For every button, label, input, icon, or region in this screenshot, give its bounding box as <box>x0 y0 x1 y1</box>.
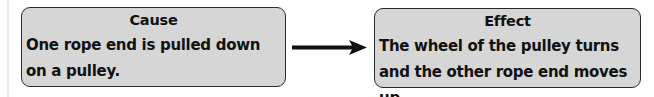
effect-box: Effect The wheel of the pulley turns and… <box>374 8 641 88</box>
effect-text: The wheel of the pulley turns and the ot… <box>379 33 636 97</box>
cause-title: Cause <box>22 10 285 30</box>
effect-title: Effect <box>375 11 640 31</box>
cause-text: One rope end is pulled down on a pulley. <box>26 32 281 84</box>
right-arrow-icon <box>291 38 369 58</box>
cause-box: Cause One rope end is pulled down on a p… <box>21 7 286 87</box>
page-edge-divider <box>7 0 9 97</box>
